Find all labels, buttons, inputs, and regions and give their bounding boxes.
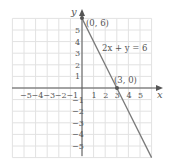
y-axis-label: y [70,6,77,17]
y-tick-label: −4 [72,130,84,139]
x-tick-label: 4 [126,91,131,100]
y-tick-label: 4 [75,38,80,47]
x-tick-label: −4 [32,91,44,100]
y-tick-label: −1 [72,96,84,105]
y-tick-label: −3 [72,119,84,128]
y-axis-arrow-icon [79,9,85,16]
point-0-6 [80,16,84,20]
x-tick-label: 5 [138,91,143,100]
equation-label: 2x + y = 6 [102,43,147,53]
x-tick-label: −2 [55,91,67,100]
y-tick-label: 3 [75,49,80,58]
y-tick-label: 1 [75,72,80,81]
annotation-point-0-6: (0, 6) [86,18,109,28]
x-tick-label: 2 [103,91,108,100]
x-tick-label: −5 [20,91,32,100]
y-tick-label: 5 [75,26,80,35]
y-tick-label: −5 [72,142,84,151]
x-tick-label: −3 [43,91,55,100]
y-tick-label: 2 [75,61,80,70]
y-tick-label: −2 [72,107,84,116]
coordinate-plane-chart: x y −5−4−3−2−112345 54321−1−2−3−4−5 (0, … [0,0,169,162]
x-tick-label: 1 [92,91,97,100]
x-axis-label: x [157,89,163,100]
annotation-point-3-0: (3, 0) [114,75,137,85]
point-3-0 [115,86,119,90]
